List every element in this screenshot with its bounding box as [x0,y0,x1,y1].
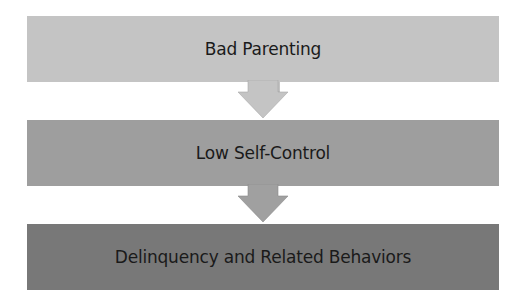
node-label: Delinquency and Related Behaviors [115,247,411,267]
node-label: Low Self-Control [196,143,330,163]
down-arrow-icon [238,80,290,120]
node-label: Bad Parenting [205,39,321,59]
down-arrow-icon [238,184,290,224]
node-delinquency: Delinquency and Related Behaviors [27,224,499,290]
node-low-self-control: Low Self-Control [27,120,499,186]
node-bad-parenting: Bad Parenting [27,16,499,82]
